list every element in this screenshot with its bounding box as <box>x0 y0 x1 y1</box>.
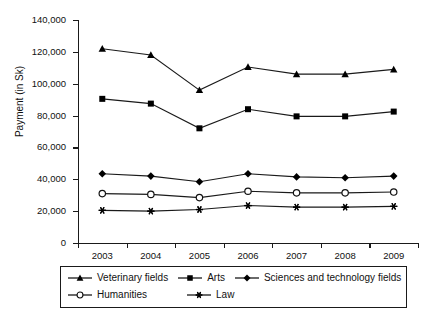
y-axis-title: Payment (in Sk) <box>14 42 25 162</box>
legend-label: Law <box>216 289 234 301</box>
data-point <box>99 45 106 52</box>
data-point <box>391 109 397 115</box>
square-marker-icon <box>177 272 203 284</box>
x-tick <box>418 243 419 248</box>
x-tick <box>321 243 322 248</box>
data-point <box>196 178 204 186</box>
legend-row: Veterinary fieldsArtsSciences and techno… <box>67 270 410 286</box>
data-point <box>390 203 397 209</box>
series-sciences-and-technology-fields <box>98 170 397 186</box>
data-point <box>148 191 154 197</box>
data-point <box>390 172 398 180</box>
data-point <box>99 190 105 196</box>
legend-label: Sciences and technology fields <box>264 272 401 284</box>
series-line <box>102 99 393 128</box>
data-point <box>99 207 106 213</box>
data-point <box>244 170 252 178</box>
plot-area <box>78 20 418 243</box>
data-point <box>148 101 154 107</box>
x-tick <box>224 243 225 248</box>
legend-item[interactable]: Veterinary fields <box>67 270 168 286</box>
open-circle-marker-icon <box>67 289 93 301</box>
series-layer <box>78 20 418 243</box>
x-tick-label: 2005 <box>177 250 221 261</box>
data-point <box>293 204 300 210</box>
y-tick-label: 40,000 <box>37 174 66 184</box>
x-tick-label: 2004 <box>129 250 173 261</box>
legend-row: HumanitiesLaw <box>67 287 243 303</box>
data-point <box>196 125 202 131</box>
x-tick-label: 2008 <box>323 250 367 261</box>
triangle-marker-icon <box>67 272 93 284</box>
diamond-marker-icon <box>234 272 260 284</box>
data-point <box>147 172 155 180</box>
legend-item[interactable]: Humanities <box>67 287 147 303</box>
data-point <box>245 106 251 112</box>
data-point <box>245 188 251 194</box>
legend-item[interactable]: Law <box>186 287 234 303</box>
data-point <box>99 96 105 102</box>
x-tick <box>127 243 128 248</box>
x-tick <box>78 243 79 248</box>
data-point <box>342 113 348 119</box>
asterisk-marker-icon <box>186 289 212 301</box>
data-point <box>390 66 397 73</box>
data-point <box>341 174 349 182</box>
x-tick-label: 2007 <box>275 250 319 261</box>
data-point <box>391 189 397 195</box>
legend-label: Humanities <box>97 289 147 301</box>
x-tick <box>369 243 370 248</box>
data-point <box>342 204 349 210</box>
legend-label: Arts <box>207 272 225 284</box>
data-point <box>196 194 202 200</box>
x-tick <box>272 243 273 248</box>
y-tick-label: 140,000 <box>32 15 66 25</box>
data-point <box>293 173 301 181</box>
y-tick-label: 60,000 <box>37 142 66 152</box>
x-axis-line <box>78 243 418 244</box>
y-tick-label: 100,000 <box>32 79 66 89</box>
data-point <box>342 190 348 196</box>
data-point <box>196 206 203 212</box>
y-tick-label: 120,000 <box>32 47 66 57</box>
y-tick-label: 80,000 <box>37 111 66 121</box>
x-tick-label: 2006 <box>226 250 270 261</box>
data-point <box>244 63 251 70</box>
legend-item[interactable]: Arts <box>177 270 225 286</box>
legend-label: Veterinary fields <box>97 272 168 284</box>
series-law <box>99 202 398 214</box>
series-arts <box>99 96 396 131</box>
data-point <box>147 208 154 214</box>
data-point <box>293 190 299 196</box>
x-tick-label: 2009 <box>372 250 416 261</box>
data-point <box>244 202 251 208</box>
x-tick <box>175 243 176 248</box>
y-tick-label: 20,000 <box>37 206 66 216</box>
chart-legend: Veterinary fieldsArtsSciences and techno… <box>60 266 407 308</box>
legend-item[interactable]: Sciences and technology fields <box>234 270 401 286</box>
y-tick-label: 0 <box>61 238 66 248</box>
data-point <box>196 86 203 93</box>
x-tick-label: 2003 <box>80 250 124 261</box>
data-point <box>98 170 106 178</box>
data-point <box>294 113 300 119</box>
series-humanities <box>99 188 397 201</box>
series-veterinary-fields <box>99 45 398 93</box>
line-chart: Payment (in Sk) 020,00040,00060,00080,00… <box>0 0 426 319</box>
